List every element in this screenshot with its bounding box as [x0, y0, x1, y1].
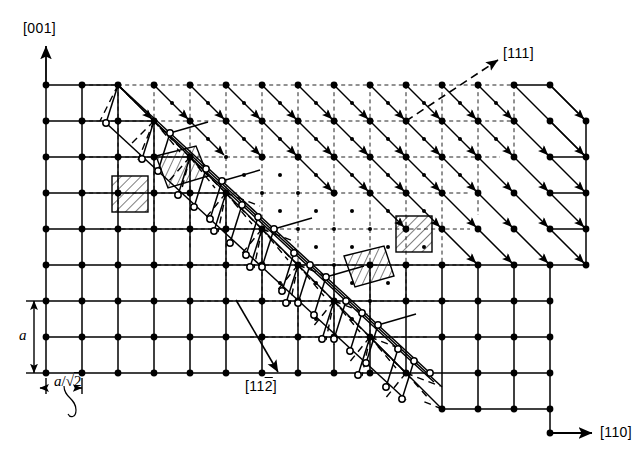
top-right-upper-lattice [514, 85, 586, 265]
direction-label-111: [111] [503, 45, 534, 61]
lattice-diagram-svg [0, 0, 640, 462]
figure-canvas: [001] [111] [110] [112] a a/√2 [0, 0, 640, 462]
direction-label-112bar-close: ] [273, 378, 277, 394]
dimension-label-a-numerator: a [54, 373, 62, 389]
dimension-label-radicand: 2 [74, 373, 82, 389]
axis-label-001: [001] [23, 20, 56, 36]
axis-label-110: [110] [600, 424, 632, 440]
direction-label-112bar-prefix: [11 [245, 378, 265, 394]
direction-label-112bar: [112] [245, 378, 277, 394]
direction-label-112bar-overbar-digit: 2 [265, 378, 273, 394]
radical-icon: √ [66, 373, 74, 389]
direction-arrow-112bar [236, 300, 278, 372]
dimension-label-a-over-root2: a/√2 [54, 373, 81, 390]
axis-arrow-110 [547, 409, 592, 436]
dimension-label-a: a [19, 327, 27, 344]
